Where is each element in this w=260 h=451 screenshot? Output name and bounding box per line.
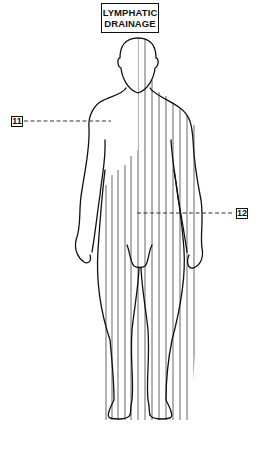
label-12: 12 [236,208,248,219]
inner-leg-right [141,268,150,415]
body-diagram [0,0,260,451]
right-torso-leg [150,170,184,419]
label-11: 11 [11,116,23,127]
hatch-lines [106,38,194,420]
right-shoulder-arm-outer [150,88,203,268]
body-outline [75,38,202,419]
